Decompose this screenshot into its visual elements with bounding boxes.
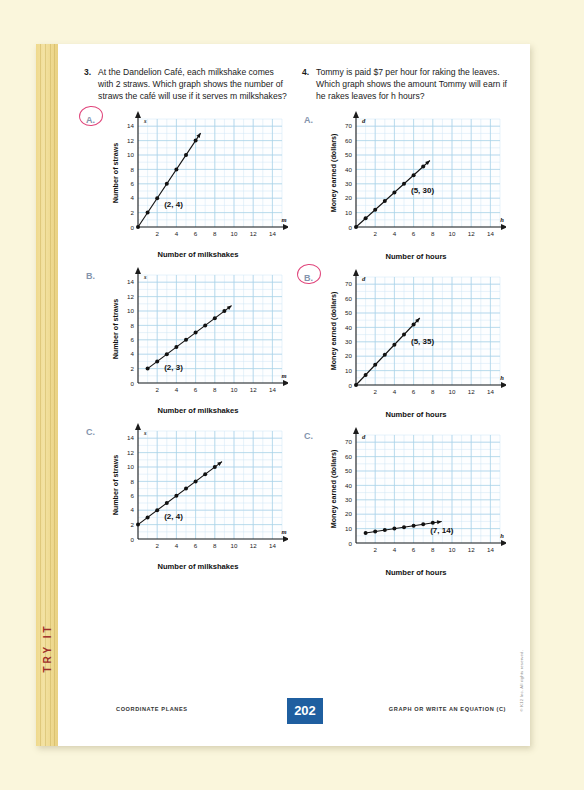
svg-text:(2, 3): (2, 3) [164,363,183,372]
svg-text:6: 6 [412,388,416,395]
question-4-number: 4. [302,66,309,103]
svg-text:12: 12 [250,230,257,237]
svg-text:2: 2 [373,230,377,237]
side-tab-strip: TRY IT [36,44,58,746]
svg-text:4: 4 [175,542,179,549]
svg-text:50: 50 [345,151,352,158]
graph-3a: 246810121424681012140msNumber of straws(… [108,111,288,259]
svg-text:m: m [281,216,286,223]
page-number-badge: 202 [287,698,323,724]
svg-text:(2, 4): (2, 4) [164,200,183,209]
svg-text:Number of straws: Number of straws [111,298,120,359]
question-4-heading: 4. Tommy is paid $7 per hour for raking … [302,66,509,103]
svg-text:4: 4 [175,386,179,393]
graph-4c: 2468101214102030405060700hdMoney earned … [326,427,506,575]
svg-text:4: 4 [175,230,179,237]
question-4-choice-c[interactable]: C. 2468101214102030405060700hdMoney earn… [302,427,509,577]
page-footer: COORDINATE PLANES 202 GRAPH OR WRITE AN … [80,698,530,724]
svg-text:0: 0 [349,382,353,389]
svg-text:2: 2 [131,364,135,371]
svg-text:30: 30 [345,338,352,345]
svg-text:10: 10 [127,307,134,314]
question-4-choice-b[interactable]: B. 2468101214102030405060700hdMoney earn… [302,269,509,419]
svg-text:50: 50 [345,309,352,316]
footer-lesson-title: GRAPH OR WRITE AN EQUATION (C) [389,706,506,712]
graph-3b-xlabel: Number of milkshakes [108,406,288,415]
svg-text:20: 20 [345,510,352,517]
svg-text:Money earned (dollars): Money earned (dollars) [329,449,338,528]
choice-label-4a: A. [304,115,313,125]
svg-text:h: h [500,374,504,381]
svg-text:6: 6 [131,492,135,499]
svg-text:60: 60 [345,136,352,143]
svg-text:12: 12 [468,546,475,553]
svg-text:h: h [500,532,504,539]
question-3-column: 3. At the Dandelion Café, each milkshake… [84,66,291,571]
svg-text:14: 14 [487,388,494,395]
svg-text:s: s [143,429,147,436]
svg-text:12: 12 [468,388,475,395]
svg-text:6: 6 [194,542,198,549]
svg-text:2: 2 [155,542,159,549]
svg-text:2: 2 [131,520,135,527]
question-3-choice-c[interactable]: C. 246810121424681012140msNumber of stra… [84,423,291,571]
svg-text:4: 4 [131,350,135,357]
question-3-choice-a[interactable]: A. 246810121424681012140msNumber of stra… [84,111,291,259]
svg-text:40: 40 [345,165,352,172]
svg-text:10: 10 [449,546,456,553]
svg-text:h: h [500,216,504,223]
worksheet-page: TRY IT 3. At the Dandelion Café, each mi… [36,44,530,746]
svg-text:10: 10 [449,230,456,237]
svg-text:(7, 14): (7, 14) [430,526,453,535]
question-3-choice-b[interactable]: B. 246810121424681012140msNumber of stra… [84,267,291,415]
svg-text:10: 10 [449,388,456,395]
svg-text:4: 4 [393,388,397,395]
svg-text:(5, 35): (5, 35) [411,336,434,345]
graph-4a: 2468101214102030405060700hdMoney earned … [326,111,506,259]
svg-text:60: 60 [345,452,352,459]
svg-text:14: 14 [487,546,494,553]
copyright-notice: © K12 Inc. All rights reserved. [519,650,524,711]
svg-text:2: 2 [155,230,159,237]
svg-text:10: 10 [231,542,238,549]
svg-text:2: 2 [373,546,377,553]
graph-4c-xlabel: Number of hours [326,568,506,577]
question-4-choice-a[interactable]: A. 2468101214102030405060700hdMoney earn… [302,111,509,261]
svg-text:14: 14 [487,230,494,237]
svg-text:12: 12 [127,136,134,143]
svg-text:4: 4 [393,546,397,553]
svg-text:6: 6 [412,230,416,237]
svg-text:Money earned (dollars): Money earned (dollars) [329,291,338,370]
svg-text:8: 8 [213,542,217,549]
svg-text:8: 8 [213,230,217,237]
question-3-number: 3. [84,66,91,103]
svg-text:30: 30 [345,180,352,187]
question-4-column: 4. Tommy is paid $7 per hour for raking … [302,66,509,577]
svg-text:30: 30 [345,496,352,503]
svg-text:s: s [143,117,147,124]
svg-text:10: 10 [231,230,238,237]
svg-text:m: m [281,372,286,379]
svg-text:6: 6 [412,546,416,553]
svg-text:50: 50 [345,467,352,474]
svg-text:12: 12 [127,292,134,299]
svg-text:8: 8 [131,165,135,172]
graph-3c: 246810121424681012140msNumber of straws(… [108,423,288,571]
svg-text:20: 20 [345,352,352,359]
svg-text:Number of straws: Number of straws [111,142,120,203]
graph-4b-xlabel: Number of hours [326,410,506,419]
svg-text:20: 20 [345,194,352,201]
graph-3c-xlabel: Number of milkshakes [108,562,288,571]
question-4-text: Tommy is paid $7 per hour for raking the… [316,66,509,103]
svg-text:6: 6 [131,180,135,187]
svg-text:Number of straws: Number of straws [111,454,120,515]
svg-text:4: 4 [393,230,397,237]
svg-text:10: 10 [345,524,352,531]
svg-text:10: 10 [345,366,352,373]
svg-text:14: 14 [127,278,134,285]
svg-text:70: 70 [345,280,352,287]
svg-text:2: 2 [131,208,135,215]
svg-text:4: 4 [131,194,135,201]
try-it-tab-label: TRY IT [42,627,53,673]
svg-text:8: 8 [431,388,435,395]
